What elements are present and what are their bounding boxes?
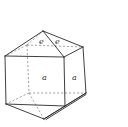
face-label-a-front: a: [42, 73, 47, 82]
face-label-a-side: a: [72, 73, 77, 82]
face-labels: e e a a: [39, 37, 77, 82]
crystal-diagram: e e a a: [0, 0, 128, 127]
face-label-e-right: e: [55, 37, 60, 46]
face-label-e-left: e: [39, 37, 44, 46]
